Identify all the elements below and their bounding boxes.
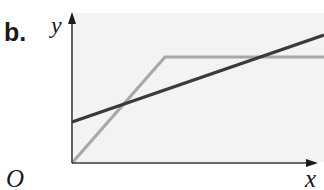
y-axis-label: y	[49, 12, 62, 38]
plot-region	[73, 13, 324, 162]
part-label: b.	[4, 18, 26, 46]
graph-svg: b. y x O	[0, 0, 324, 190]
origin-label: O	[6, 165, 24, 190]
figure-canvas: b. y x O	[0, 0, 324, 190]
x-axis-label: x	[304, 165, 316, 190]
